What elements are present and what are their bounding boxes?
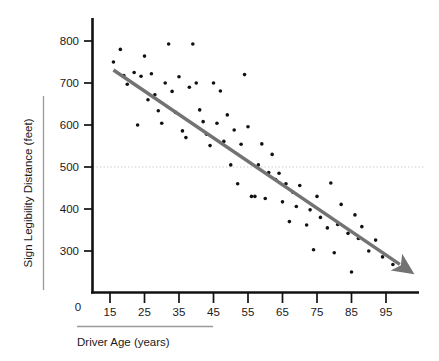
x-tick-label: 85 [345,306,358,318]
data-point [353,213,357,217]
data-point [253,195,257,199]
data-point [295,205,299,209]
data-point [315,195,319,199]
data-point [201,120,205,124]
data-point [177,75,181,79]
data-point [125,82,129,86]
data-point [226,113,230,117]
x-tick-label: 95 [380,306,393,318]
data-point [246,125,250,129]
data-point [181,129,185,133]
data-point [236,182,240,186]
data-point [119,48,123,52]
data-point [229,163,233,167]
data-point [198,108,202,112]
data-point [270,153,274,157]
data-point [112,60,116,64]
data-point [212,81,216,85]
data-point [391,263,395,267]
x-tick-label: 35 [173,306,186,318]
data-point [277,172,281,176]
x-tick-label: 45 [207,306,220,318]
origin-label: 0 [75,301,81,313]
scatter-chart: 300400500600700800 152535455565758595 0 … [0,0,439,361]
y-tick-label: 500 [60,161,79,173]
data-point [350,270,354,274]
data-point [215,122,219,126]
y-tick-label: 300 [60,245,79,257]
data-point [329,181,333,185]
data-point [263,197,267,201]
data-point [232,128,236,132]
data-point [360,225,364,229]
x-tick-label: 25 [138,306,151,318]
data-point [136,123,140,127]
data-point [326,226,330,230]
data-point [163,81,167,85]
data-point [308,208,312,212]
x-tick-label: 75 [311,306,324,318]
data-point [374,238,378,242]
data-point [239,143,243,147]
data-point [312,248,316,252]
data-point [298,184,302,188]
y-axis-title: Sign Legibility Distance (feet) [22,118,34,267]
data-point [150,72,154,76]
data-point [281,200,285,204]
y-tick-label: 400 [60,203,79,215]
data-point [260,142,264,146]
chart-canvas: 300400500600700800 152535455565758595 0 … [0,0,439,361]
data-point [132,71,136,75]
data-point [194,81,198,85]
data-point [250,195,254,199]
data-point [367,249,371,253]
data-point [139,74,143,78]
data-point [184,136,188,140]
data-point [157,109,161,113]
data-point [332,251,336,255]
x-tick-label: 65 [276,306,289,318]
y-tick-label: 800 [60,35,79,47]
data-point [191,42,195,46]
data-point [160,122,164,126]
data-point [170,90,174,94]
data-point [219,89,223,93]
data-point [339,203,343,207]
data-point [288,220,292,224]
data-point [319,216,323,220]
data-point [143,54,147,58]
data-point [188,85,192,89]
y-tick-label: 700 [60,77,79,89]
x-tick-label: 15 [104,306,117,318]
data-point [146,98,150,102]
data-point [208,144,212,148]
x-axis-title: Driver Age (years) [77,336,170,348]
x-tick-label: 55 [242,306,255,318]
data-point [167,42,171,46]
y-tick-label: 600 [60,119,79,131]
data-point [305,223,309,227]
data-point [243,73,247,77]
